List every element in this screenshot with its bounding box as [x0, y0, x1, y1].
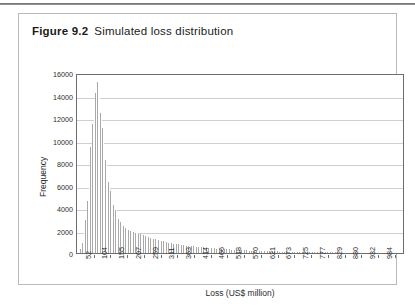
- figure-number: Figure 9.2: [32, 25, 88, 37]
- x-axis-tick-mark: [311, 255, 312, 258]
- y-axis-tick-label: 2000: [57, 227, 73, 236]
- y-axis-tick-label: 0: [69, 250, 73, 259]
- x-axis-tick-label: 466: [217, 247, 226, 259]
- x-axis-tick-label: 363: [183, 247, 192, 259]
- x-axis-tick-label: 984: [384, 247, 393, 259]
- x-axis-tick-mark: [94, 255, 95, 258]
- x-axis-tick-mark: [244, 255, 245, 258]
- x-axis-tick-mark: [194, 255, 195, 258]
- y-axis-tick-label: 14000: [53, 92, 73, 101]
- x-axis-tick-label: 311: [167, 248, 176, 259]
- figure-title: Figure 9.2Simulated loss distribution: [32, 25, 233, 37]
- x-axis-tick-mark: [110, 255, 111, 258]
- figure-caption: Simulated loss distribution: [94, 25, 233, 37]
- x-axis-tick-mark: [144, 255, 145, 258]
- page-top-rule: [0, 3, 415, 5]
- figure-container: Figure 9.2Simulated loss distribution Fr…: [18, 13, 397, 285]
- x-axis-tick-labels: 5210415520725931136341446651857062167372…: [76, 259, 404, 289]
- x-axis-tick-label: 673: [284, 247, 293, 259]
- x-axis-tick-label: 207: [133, 247, 142, 259]
- x-axis-tick-label: 155: [117, 247, 126, 259]
- x-axis-tick-mark: [177, 255, 178, 258]
- x-axis-tick-label: 777: [317, 247, 326, 259]
- y-axis-tick-labels: 1600014000120001000080006000400020000: [37, 74, 73, 254]
- y-axis-tick-label: 16000: [53, 70, 73, 79]
- x-axis-tick-label: 518: [234, 247, 243, 259]
- y-axis-tick-label: 12000: [53, 115, 73, 124]
- x-axis-tick-label: 259: [150, 247, 159, 259]
- y-axis-tick-label: 8000: [57, 160, 73, 169]
- x-axis-tick-mark: [211, 255, 212, 258]
- x-axis-tick-label: 932: [368, 247, 377, 259]
- x-axis-tick-label: 880: [351, 247, 360, 259]
- x-axis-tick-mark: [395, 255, 396, 258]
- x-axis-title: Loss (US$ million): [76, 288, 404, 298]
- x-axis-tick-mark: [294, 255, 295, 258]
- x-axis-tick-label: 829: [334, 247, 343, 259]
- x-axis-tick-mark: [261, 255, 262, 258]
- x-axis-tick-mark: [227, 255, 228, 258]
- x-axis-tick-label: 725: [301, 247, 310, 259]
- plot-area: [76, 74, 404, 254]
- x-axis-tick-mark: [278, 255, 279, 258]
- x-axis-tick-mark: [161, 255, 162, 258]
- x-axis-tick-label: 570: [250, 247, 259, 259]
- y-axis-tick-label: 4000: [57, 205, 73, 214]
- x-axis-tick-label: 621: [267, 247, 276, 259]
- x-axis-tick-label: 414: [200, 247, 209, 259]
- y-axis-tick-label: 10000: [53, 137, 73, 146]
- x-axis-tick-label: 104: [100, 247, 109, 259]
- x-axis-tick-mark: [328, 255, 329, 258]
- x-axis-tick-mark: [361, 255, 362, 258]
- histogram-bars: [77, 75, 403, 253]
- y-axis-tick-label: 6000: [57, 182, 73, 191]
- histogram-chart: Frequency 160001400012000100008000600040…: [37, 54, 415, 299]
- x-axis-tick-mark: [345, 255, 346, 258]
- x-axis-tick-label: 52: [83, 251, 92, 259]
- x-axis-tick-mark: [127, 255, 128, 258]
- x-axis-tick-mark: [378, 255, 379, 258]
